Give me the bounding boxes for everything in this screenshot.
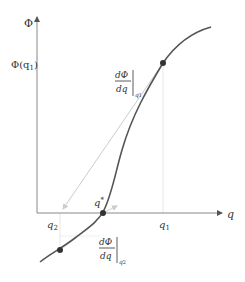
svg-text:dq: dq (100, 251, 112, 261)
q1-label: q1 (159, 219, 170, 232)
tangent-line-q1 (63, 63, 163, 209)
q2-label: q2 (47, 219, 58, 232)
svg-text:dq: dq (116, 84, 128, 94)
q-star-point (100, 210, 106, 216)
y-axis-label: Φ (24, 17, 33, 30)
derivative-at-q2-label: dΦ dq q2 (99, 237, 126, 266)
q1-point (160, 60, 166, 66)
svg-text:q1: q1 (135, 91, 142, 99)
svg-text:q2: q2 (119, 258, 126, 266)
svg-text:dΦ: dΦ (99, 237, 112, 247)
x-axis-label: q (227, 208, 234, 221)
q-star-label: q* (94, 196, 104, 208)
newton-method-diagram: Φ q Φ(q1) q* q1 q2 dΦ dq q1 dΦ dq q2 (0, 0, 245, 282)
derivative-at-q1-label: dΦ dq q1 (115, 70, 142, 99)
phi-curve (40, 27, 211, 262)
q2-point (57, 247, 63, 253)
svg-text:dΦ: dΦ (115, 70, 128, 80)
phi-q1-label: Φ(q1) (11, 59, 38, 72)
